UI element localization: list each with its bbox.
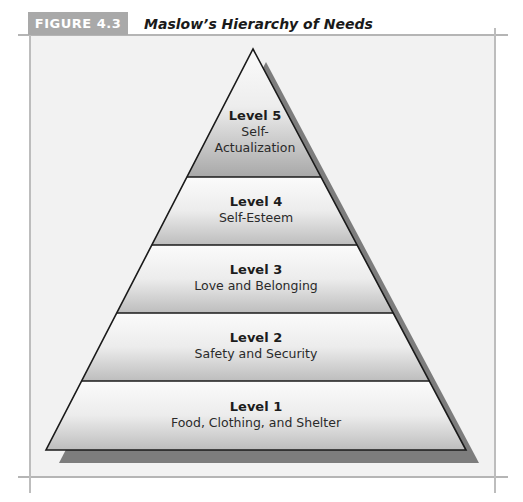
- tier-2-text: Level 2 Safety and Security: [195, 330, 318, 362]
- tier-5-text: Level 5 Self- Actualization: [215, 108, 296, 156]
- tier-1-need: Food, Clothing, and Shelter: [171, 415, 341, 431]
- tier-3-level: Level 3: [194, 262, 318, 278]
- tier-1-text: Level 1 Food, Clothing, and Shelter: [171, 399, 341, 431]
- tier-3-need: Love and Belonging: [194, 278, 318, 294]
- tier-5-need-line2: Actualization: [215, 140, 296, 156]
- tier-2-need: Safety and Security: [195, 346, 318, 362]
- tier-5-need-line1: Self-: [215, 124, 296, 140]
- tier-1-level: Level 1: [171, 399, 341, 415]
- tier-4-need: Self-Esteem: [219, 210, 293, 226]
- tier-3-text: Level 3 Love and Belonging: [194, 262, 318, 294]
- tier-4-level: Level 4: [219, 194, 293, 210]
- tier-5-level: Level 5: [215, 108, 296, 124]
- tier-4-text: Level 4 Self-Esteem: [219, 194, 293, 226]
- tier-2-level: Level 2: [195, 330, 318, 346]
